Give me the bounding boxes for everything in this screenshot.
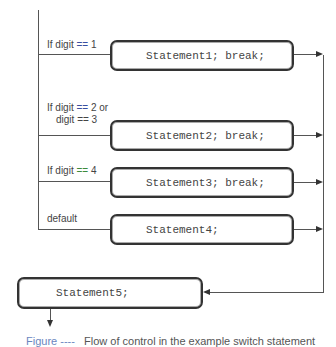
case-value: 2 or (88, 102, 108, 113)
case-label-2: If digit == 2 or digit == 3 (47, 102, 108, 126)
statement-box-3: Statement3; break; (110, 167, 294, 198)
arrow-right-icon (316, 179, 323, 185)
arrow-right-icon (316, 132, 323, 138)
case-label-3: If digit == 4 (47, 165, 97, 177)
statement-box-4: Statement4; (110, 214, 294, 245)
exit-line-4 (294, 229, 316, 230)
arrow-right-icon (316, 226, 323, 232)
return-line (209, 292, 324, 293)
exit-line-2 (294, 135, 316, 136)
case-value: 4 (88, 165, 96, 176)
statement-text: Statement1; break; (146, 50, 265, 62)
statement-text: Statement5; (56, 287, 129, 299)
case-label-text: If digit (47, 102, 76, 113)
branch-line-1 (38, 54, 110, 55)
entry-flow-line (38, 10, 39, 230)
statement-text: Statement2; break; (146, 130, 265, 142)
equals-operator: == (76, 102, 88, 113)
arrow-right-icon (316, 51, 323, 57)
equals-operator: == (77, 114, 89, 125)
equals-operator: == (76, 39, 88, 50)
case-label-text: digit (56, 114, 77, 125)
statement-text: Statement4; (146, 224, 219, 236)
case-label-text: If digit (47, 39, 76, 50)
statement-text: Statement3; break; (146, 177, 265, 189)
exit-line-1 (294, 54, 316, 55)
exit-line-3 (294, 182, 316, 183)
case-value: 3 (89, 114, 97, 125)
case-label-default: default (47, 213, 77, 225)
branch-line-2 (38, 135, 110, 136)
arrow-left-icon (203, 289, 210, 295)
equals-operator: == (76, 165, 88, 176)
case-value: 1 (88, 39, 96, 50)
figure-number: Figure ---- (26, 335, 75, 347)
figure-caption: Figure ---- Flow of control in the examp… (26, 335, 315, 347)
statement-box-1: Statement1; break; (110, 40, 294, 71)
statement-box-2: Statement2; break; (110, 120, 294, 151)
branch-line-default (38, 229, 110, 230)
statement-box-5: Statement5; (17, 277, 203, 309)
case-label-text: default (47, 213, 77, 224)
case-label-1: If digit == 1 (47, 39, 97, 51)
merge-line (323, 55, 324, 293)
case-label-text: If digit (47, 165, 76, 176)
branch-line-3 (38, 181, 110, 182)
arrow-down-icon (47, 320, 53, 327)
caption-text: Flow of control in the example switch st… (84, 335, 315, 347)
